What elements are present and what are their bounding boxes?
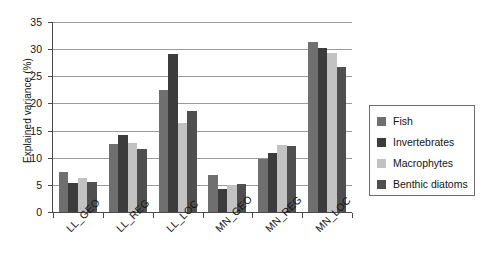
bar xyxy=(268,153,278,212)
bar xyxy=(168,54,178,212)
y-axis-tick-label: 20 xyxy=(16,98,42,108)
legend-swatch-icon xyxy=(377,117,386,126)
bar xyxy=(59,172,69,212)
bar xyxy=(258,159,268,212)
y-axis-tick-label: 15 xyxy=(16,126,42,136)
legend-swatch-icon xyxy=(377,138,386,147)
bar xyxy=(118,135,128,212)
bar xyxy=(308,42,318,212)
legend-item-label: Benthic diatoms xyxy=(393,179,468,190)
legend-item: Macrophytes xyxy=(377,156,453,170)
x-axis-tick-mark xyxy=(153,213,154,218)
bar xyxy=(109,144,119,212)
x-axis-tick-mark xyxy=(103,213,104,218)
bar xyxy=(159,90,169,212)
bar xyxy=(218,189,228,212)
legend-item-label: Invertebrates xyxy=(393,137,454,148)
bar xyxy=(208,175,218,212)
y-axis-tick-label: 35 xyxy=(16,17,42,27)
x-axis-tick-mark xyxy=(203,213,204,218)
legend-item: Fish xyxy=(377,114,413,128)
x-axis-tick-mark xyxy=(352,213,353,218)
y-axis-tick-label: 25 xyxy=(16,71,42,81)
legend-swatch-icon xyxy=(377,180,386,189)
legend-item-label: Macrophytes xyxy=(393,158,453,169)
bar-chart: Explained variance (%) 05101520253035 LL… xyxy=(0,0,490,280)
y-axis-tick-label: 30 xyxy=(16,44,42,54)
x-axis-tick-mark xyxy=(302,213,303,218)
bar xyxy=(178,123,188,212)
legend-item: Invertebrates xyxy=(377,135,454,149)
bar xyxy=(327,53,337,212)
legend-item: Benthic diatoms xyxy=(377,177,468,191)
bar xyxy=(318,48,328,212)
legend-swatch-icon xyxy=(377,159,386,168)
bar xyxy=(68,183,78,212)
y-axis-tick-label: 10 xyxy=(16,153,42,163)
gridline xyxy=(53,22,352,23)
legend-item-label: Fish xyxy=(393,116,413,127)
bar xyxy=(128,143,138,212)
x-axis-tick-mark xyxy=(53,213,54,218)
y-axis-tick-label: 5 xyxy=(16,180,42,190)
bar xyxy=(337,67,347,212)
y-axis-tick-label: 0 xyxy=(16,207,42,217)
legend: FishInvertebratesMacrophytesBenthic diat… xyxy=(369,105,475,196)
plot-area xyxy=(53,22,352,212)
x-axis-tick-mark xyxy=(252,213,253,218)
